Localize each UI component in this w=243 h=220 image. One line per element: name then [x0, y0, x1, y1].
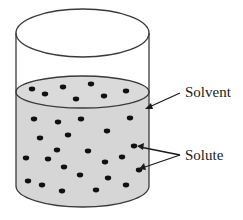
liquid-surface	[16, 76, 149, 108]
solute-particle	[23, 156, 29, 161]
solute-particle	[78, 117, 84, 122]
solution-diagram: Solvent Solute	[0, 0, 243, 220]
solute-label: Solute	[185, 147, 224, 163]
solvent-label: Solvent	[185, 84, 232, 100]
solute-particle	[123, 89, 129, 94]
solute-particle	[31, 117, 37, 122]
solute-particle	[42, 92, 48, 97]
solute-particle	[54, 148, 60, 153]
solute-particle	[85, 149, 91, 154]
solute-particle	[123, 183, 129, 188]
solute-particle	[60, 85, 66, 90]
liquid-body	[16, 92, 149, 207]
solute-particle	[105, 176, 111, 181]
solute-particle	[55, 120, 61, 125]
solvent-pointer	[147, 93, 180, 108]
beaker-illustration: Solvent Solute	[0, 0, 243, 220]
beaker-rim	[16, 9, 149, 57]
solute-particle	[59, 189, 65, 194]
solute-particle	[73, 97, 79, 102]
solute-particle	[65, 133, 71, 138]
solute-particle	[104, 129, 110, 134]
solute-particle	[39, 183, 45, 188]
solute-particle	[93, 188, 99, 193]
solute-particle	[88, 82, 94, 87]
solute-particle	[131, 144, 137, 149]
solute-particle	[127, 116, 133, 121]
solute-particle	[61, 165, 67, 170]
solute-particle	[119, 155, 125, 160]
solute-particle	[77, 173, 83, 178]
solute-particle	[102, 160, 108, 165]
solute-particle	[37, 136, 43, 141]
solute-particle	[45, 157, 51, 162]
solute-particle	[25, 179, 31, 184]
solute-particle	[29, 87, 35, 92]
solute-particle	[101, 94, 107, 99]
